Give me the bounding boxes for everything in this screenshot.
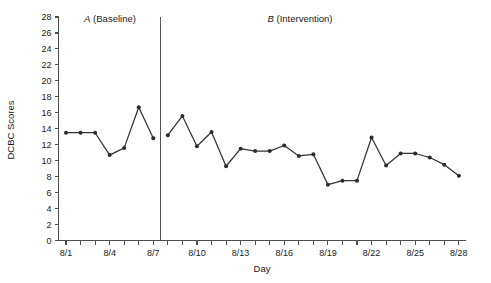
x-axis-title: Day xyxy=(254,263,271,274)
y-tick-label: 26 xyxy=(41,28,51,38)
data-point xyxy=(64,131,68,135)
data-point xyxy=(253,149,257,153)
data-line-phase-a xyxy=(66,107,153,155)
x-tick-label: 8/10 xyxy=(188,248,206,258)
data-point xyxy=(166,133,170,137)
data-point xyxy=(340,179,344,183)
data-point xyxy=(428,155,432,159)
data-point xyxy=(442,163,446,167)
chart-canvas: 0246810121416182022242628 8/18/48/78/108… xyxy=(0,0,491,283)
y-tick-label: 0 xyxy=(46,236,51,246)
y-tick-label: 2 xyxy=(46,220,51,230)
data-point xyxy=(384,163,388,167)
y-tick-label: 12 xyxy=(41,140,51,150)
data-line-phase-b xyxy=(168,116,459,185)
data-point xyxy=(297,154,301,158)
data-point xyxy=(355,179,359,183)
x-tick-label: 8/7 xyxy=(147,248,160,258)
data-point xyxy=(457,174,461,178)
x-tick-group: 8/18/48/78/108/138/168/198/228/258/28 xyxy=(60,241,468,258)
data-point-group xyxy=(64,105,461,186)
y-tick-label: 28 xyxy=(41,12,51,22)
phase-label-baseline: A (Baseline) xyxy=(83,13,136,24)
y-tick-label: 16 xyxy=(41,108,51,118)
x-tick-label: 8/19 xyxy=(319,248,337,258)
data-point xyxy=(326,183,330,187)
single-case-design-chart: 0246810121416182022242628 8/18/48/78/108… xyxy=(0,0,491,283)
data-point xyxy=(224,164,228,168)
x-tick-label: 8/16 xyxy=(275,248,293,258)
data-point xyxy=(282,144,286,148)
data-point xyxy=(122,146,126,150)
data-point xyxy=(93,131,97,135)
y-tick-label: 24 xyxy=(41,44,51,54)
y-tick-label: 6 xyxy=(46,188,51,198)
x-tick-label: 8/28 xyxy=(450,248,468,258)
data-point xyxy=(151,136,155,140)
x-tick-label: 8/25 xyxy=(406,248,424,258)
data-point xyxy=(268,149,272,153)
data-point xyxy=(311,152,315,156)
phase-label-intervention: B (Intervention) xyxy=(268,13,333,24)
y-tick-label: 8 xyxy=(46,172,51,182)
x-tick-label: 8/4 xyxy=(103,248,116,258)
y-tick-label: 22 xyxy=(41,60,51,70)
data-point xyxy=(413,151,417,155)
data-point xyxy=(399,151,403,155)
data-point xyxy=(195,144,199,148)
y-tick-label: 20 xyxy=(41,76,51,86)
data-point xyxy=(137,105,141,109)
y-axis-title: DCBC Scores xyxy=(5,100,16,159)
data-point xyxy=(180,114,184,118)
x-tick-label: 8/22 xyxy=(363,248,381,258)
y-tick-label: 10 xyxy=(41,156,51,166)
data-point xyxy=(79,131,83,135)
data-point xyxy=(108,153,112,157)
y-tick-label: 18 xyxy=(41,92,51,102)
x-tick-label: 8/13 xyxy=(232,248,250,258)
data-point xyxy=(239,147,243,151)
y-tick-label: 14 xyxy=(41,124,51,134)
y-tick-group: 0246810121416182022242628 xyxy=(41,12,58,246)
x-tick-label: 8/1 xyxy=(60,248,73,258)
data-point xyxy=(370,136,374,140)
y-tick-label: 4 xyxy=(46,204,51,214)
data-point xyxy=(210,130,214,134)
